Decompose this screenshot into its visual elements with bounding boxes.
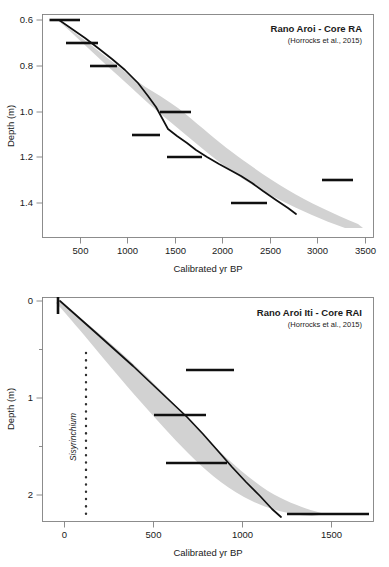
chart-core-rai: Sisyrinchium 0 1 2 0 500 [0,283,389,567]
chart-core-ra: 0.6 0.8 1.0 1.2 1.4 500 1000 1500 2000 2… [0,0,389,283]
sisyrinchium-label: Sisyrinchium [68,413,78,461]
x-tick-label: 3500 [355,245,376,256]
panel-core-ra: 0.6 0.8 1.0 1.2 1.4 500 1000 1500 2000 2… [0,0,389,283]
panel-subtitle: (Horrocks et al., 2015) [288,320,363,329]
x-axis-title: Calibrated yr BP [173,547,242,558]
x-tick-label: 500 [146,529,162,540]
y-tick-label: 1 [28,392,33,403]
panel-subtitle: (Horrocks et al., 2015) [288,36,363,45]
age-depth-figure: 0.6 0.8 1.0 1.2 1.4 500 1000 1500 2000 2… [0,0,389,567]
x-tick-label: 1500 [165,245,186,256]
y-tick-label: 1.0 [20,106,33,117]
x-tick-label: 500 [73,245,89,256]
x-tick-label: 1000 [232,529,253,540]
y-axis-title: Depth (m) [5,388,16,430]
x-tick-label: 1000 [117,245,138,256]
y-axis-title: Depth (m) [5,105,16,147]
y-tick-label: 1.4 [20,197,33,208]
panel-title: Rano Aroi - Core RA [271,23,363,34]
x-tick-label: 1500 [321,529,342,540]
x-tick-label: 2000 [212,245,233,256]
x-tick-label: 3000 [307,245,328,256]
y-tick-label: 0.6 [20,14,33,25]
y-tick-label: 0 [28,295,33,306]
x-tick-label: 2500 [260,245,281,256]
x-axis-title: Calibrated yr BP [173,263,242,274]
y-tick-label: 1.2 [20,151,33,162]
x-tick-label: 0 [62,529,67,540]
y-tick-label: 2 [28,489,33,500]
panel-title: Rano Aroi Iti - Core RAI [257,307,362,318]
y-tick-label: 0.8 [20,60,33,71]
panel-core-rai: Sisyrinchium 0 1 2 0 500 [0,283,389,567]
